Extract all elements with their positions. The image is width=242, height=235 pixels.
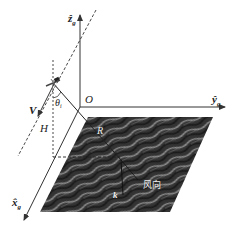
diagram-canvas: ẑg ŷg x̂g O V H θi R k 风向 bbox=[0, 0, 242, 235]
wave-vector-label: k bbox=[113, 190, 118, 200]
y-axis-label: ŷg bbox=[210, 93, 221, 108]
origin-label: O bbox=[85, 93, 93, 105]
sea-surface-plane bbox=[40, 117, 213, 212]
x-axis-label: x̂g bbox=[11, 196, 22, 211]
z-axis-label: ẑg bbox=[67, 12, 76, 27]
wind-direction-label: 风向 bbox=[143, 179, 161, 190]
height-label: H bbox=[39, 122, 49, 134]
incidence-angle-label: θi bbox=[55, 97, 62, 109]
range-label: R bbox=[96, 125, 103, 136]
velocity-label: V bbox=[29, 104, 38, 116]
